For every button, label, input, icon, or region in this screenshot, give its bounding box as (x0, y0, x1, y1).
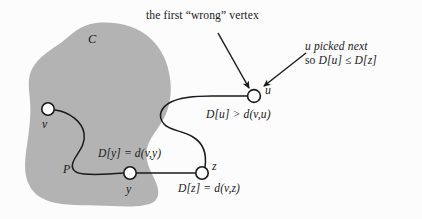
vertex-label-v-text: v (42, 117, 47, 131)
vertex-label-y-text: y (126, 182, 131, 196)
vertex-u (248, 90, 261, 103)
edge-label-Dy: D[y] = d(v,y) (98, 147, 161, 161)
path-z-to-u (160, 96, 247, 167)
vertex-label-u: u (265, 84, 271, 98)
region-label-C-text: C (88, 32, 96, 46)
path-label-P-text: P (63, 162, 70, 176)
region-label-C: C (88, 32, 96, 47)
edge-label-Dy-text: D[y] = d(v,y) (98, 147, 161, 160)
vertex-label-v: v (42, 118, 47, 132)
annotation-so-prefix: so (305, 54, 319, 67)
annotation-u-picked-next-line2-text: D[u] ≤ D[z] (319, 54, 377, 67)
annotation-first-wrong-vertex: the first “wrong” vertex (146, 9, 259, 23)
path-label-P: P (63, 163, 70, 177)
edge-label-Du: D[u] > d(v,u) (206, 108, 271, 122)
annotation-u-picked-next-line1: u picked next (305, 40, 377, 54)
dijkstra-correctness-figure: the first “wrong” vertex u picked next s… (0, 0, 422, 219)
vertex-label-u-text: u (265, 83, 271, 97)
annotation-u-picked-next-line2: so D[u] ≤ D[z] (305, 54, 377, 68)
edge-label-Dz-text: D[z] = d(v,z) (178, 182, 240, 195)
edge-label-Du-text: D[u] > d(v,u) (206, 108, 271, 121)
vertex-label-z-text: z (212, 159, 217, 173)
vertex-z (196, 167, 208, 179)
vertex-y (124, 167, 136, 179)
vertex-label-z: z (212, 160, 217, 174)
vertex-v (42, 103, 54, 115)
annotation-u-picked-next-line1-text: u picked next (305, 40, 367, 53)
vertex-label-y: y (126, 183, 131, 197)
annotation-u-picked-next: u picked next so D[u] ≤ D[z] (305, 40, 377, 67)
arrow-u-picked-next-to-u (264, 53, 306, 86)
arrow-first-wrong-vertex-to-u (218, 33, 249, 88)
annotation-first-wrong-vertex-text: the first “wrong” vertex (146, 9, 259, 22)
edge-label-Dz: D[z] = d(v,z) (178, 182, 240, 196)
